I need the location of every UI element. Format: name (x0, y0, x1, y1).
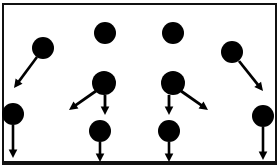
node-n7 (161, 71, 185, 95)
node-n8 (158, 120, 180, 142)
diagram-canvas (0, 0, 280, 168)
outer-border (3, 4, 276, 163)
node-n6 (162, 22, 184, 44)
node-arrow-diagram (0, 0, 280, 168)
node-n9 (221, 41, 243, 63)
node-n4 (92, 71, 116, 95)
node-n3 (94, 22, 116, 44)
node-n2 (2, 103, 24, 125)
node-n10 (252, 105, 274, 127)
node-n1 (32, 37, 54, 59)
node-n5 (89, 120, 111, 142)
